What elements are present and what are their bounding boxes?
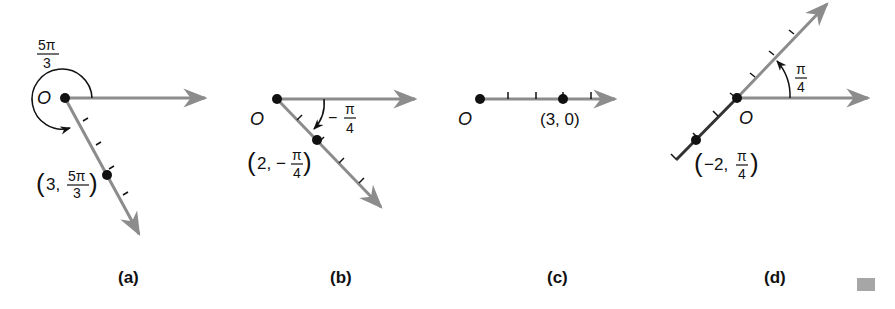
angle-arc (314, 99, 324, 129)
pole-dot (475, 94, 485, 104)
origin-label: O (37, 88, 51, 108)
point-label-num: π (737, 148, 747, 164)
point-label-r: 3, (46, 175, 60, 194)
point-dot (102, 170, 112, 180)
pole-dot (732, 93, 742, 103)
tick-marks (671, 30, 794, 159)
point-dot (558, 94, 568, 104)
pole-dot (272, 94, 282, 104)
origin-label: O (458, 109, 472, 129)
angle-label-den: 3 (43, 55, 51, 71)
caption-d: (d) (764, 268, 786, 287)
paren-close: ) (750, 148, 759, 178)
point-label-den: 3 (73, 185, 81, 201)
point-dot (312, 135, 322, 145)
angle-label-num: π (345, 101, 355, 117)
origin-label: O (250, 109, 264, 129)
origin-label: O (739, 108, 753, 128)
terminal-ray (737, 4, 827, 98)
point-label-r: −2, (704, 155, 728, 174)
point-label-den: 4 (738, 166, 746, 182)
point-label-num: π (292, 147, 302, 163)
extended-ray (676, 98, 737, 160)
angle-label-num: π (796, 61, 806, 77)
angle-label-sign: − (328, 109, 337, 126)
point-label-r: 2, − (257, 154, 286, 173)
paren-close: ) (303, 147, 312, 177)
paren-open: ( (36, 168, 45, 198)
pole-dot (60, 93, 70, 103)
paren-open: ( (694, 148, 703, 178)
polar-points-diagram: O 5π 3 ( 3, 5π 3 ) (a) O − π 4 ( 2, − π … (0, 0, 895, 309)
terminal-ray (65, 98, 139, 234)
paren-open: ( (247, 147, 256, 177)
point-label-num: 5π (68, 168, 86, 184)
panel-c: O (3, 0) (c) (458, 92, 615, 287)
panel-d: O π 4 ( −2, π 4 ) (d) (671, 4, 868, 287)
point-dot (691, 135, 701, 145)
panel-b: O − π 4 ( 2, − π 4 ) (b) (247, 94, 415, 287)
caption-b: (b) (330, 268, 352, 287)
point-label: (3, 0) (540, 110, 580, 129)
caption-a: (a) (118, 268, 139, 287)
caption-c: (c) (547, 268, 568, 287)
paren-close: ) (89, 168, 98, 198)
angle-label-den: 4 (797, 79, 805, 95)
angle-label-den: 4 (346, 120, 354, 136)
panel-a: O 5π 3 ( 3, 5π 3 ) (a) (32, 37, 205, 287)
end-marker (857, 278, 875, 291)
point-label-den: 4 (293, 165, 301, 181)
angle-arc (777, 61, 790, 98)
angle-label-num: 5π (38, 37, 56, 53)
